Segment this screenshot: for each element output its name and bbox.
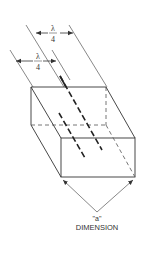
lower-four: 4 bbox=[36, 63, 40, 72]
upper-four: 4 bbox=[51, 35, 55, 44]
slot-lines bbox=[59, 76, 102, 158]
waveguide-diagram: λ 4 λ 4 "a" DIMENSION bbox=[0, 0, 144, 262]
a-label: "a" bbox=[93, 215, 102, 222]
box-receding-edges bbox=[31, 87, 135, 177]
a-dimension-lines bbox=[63, 180, 133, 212]
lower-lambda: λ bbox=[36, 52, 40, 61]
dimension-label: DIMENSION bbox=[76, 223, 119, 232]
upper-lambda: λ bbox=[51, 24, 55, 33]
